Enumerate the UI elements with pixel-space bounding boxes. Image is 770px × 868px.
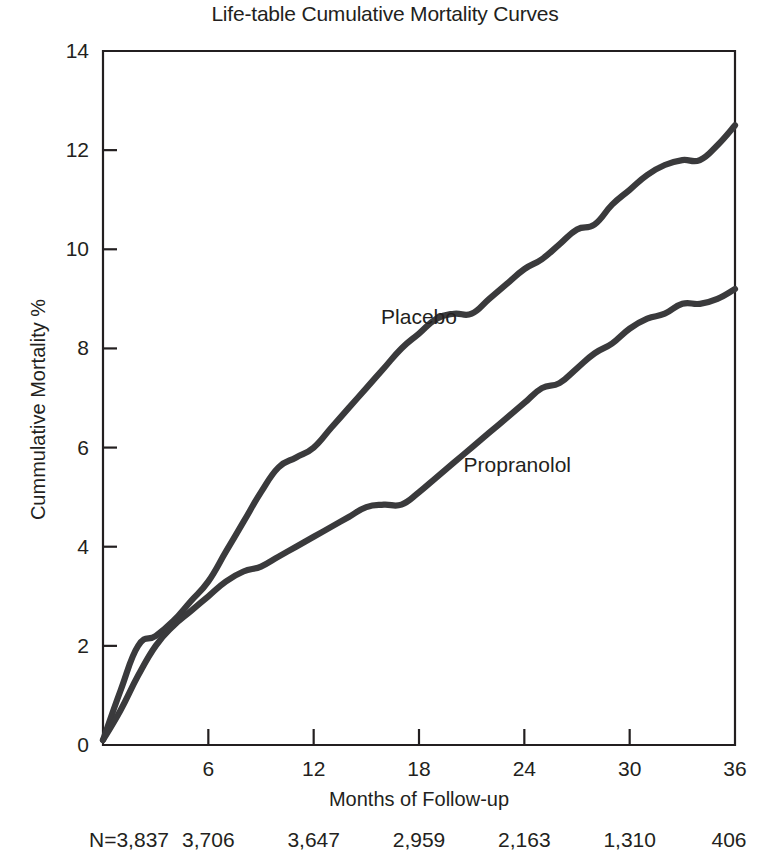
- y-tick-label: 14: [66, 39, 89, 63]
- y-tick-label: 12: [66, 138, 89, 162]
- at-risk-value: N=3,837: [89, 828, 169, 852]
- at-risk-value: 2,163: [498, 828, 551, 852]
- x-tick-label: 24: [513, 757, 536, 781]
- x-tick-label: 12: [302, 757, 325, 781]
- at-risk-value: 406: [711, 828, 746, 852]
- at-risk-value: 2,959: [393, 828, 446, 852]
- y-tick-label: 8: [77, 336, 89, 360]
- curve-propranolol: [103, 289, 735, 740]
- y-tick-label: 6: [77, 436, 89, 460]
- series-curves: [103, 125, 735, 740]
- y-tick-label: 2: [77, 634, 89, 658]
- at-risk-value: 3,647: [287, 828, 340, 852]
- axis-ticks: [103, 150, 630, 745]
- at-risk-value: 1,310: [603, 828, 656, 852]
- at-risk-value: 3,706: [182, 828, 235, 852]
- plot-frame: [103, 51, 735, 745]
- x-tick-label: 36: [723, 757, 746, 781]
- at-risk-row: N=3,8373,7063,6472,9592,1631,310406: [0, 828, 770, 862]
- x-tick-label: 18: [407, 757, 430, 781]
- y-tick-label: 0: [77, 733, 89, 757]
- y-tick-label: 4: [77, 535, 89, 559]
- x-tick-label: 6: [202, 757, 214, 781]
- series-label-propranolol: Propranolol: [464, 453, 571, 477]
- y-tick-label: 10: [66, 237, 89, 261]
- plot-border: [103, 51, 735, 745]
- plot-svg: [0, 0, 770, 868]
- figure-container: Life-table Cumulative Mortality Curves C…: [0, 0, 770, 868]
- series-label-placebo: Placebo: [381, 305, 457, 329]
- curve-placebo: [103, 125, 735, 740]
- x-tick-label: 30: [618, 757, 641, 781]
